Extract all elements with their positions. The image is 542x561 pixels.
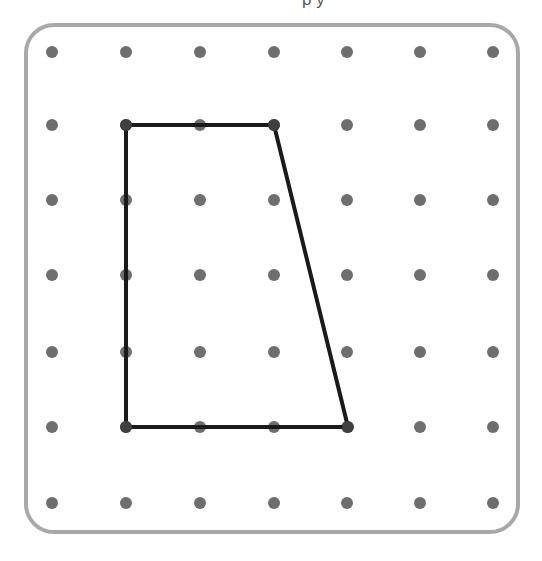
peg-dot[interactable]: [46, 46, 58, 58]
peg-dot[interactable]: [487, 421, 499, 433]
peg-dot[interactable]: [414, 119, 426, 131]
peg-dot[interactable]: [414, 346, 426, 358]
peg-dot[interactable]: [46, 421, 58, 433]
peg-dot[interactable]: [268, 46, 280, 58]
peg-dot[interactable]: [46, 119, 58, 131]
peg-dot[interactable]: [487, 346, 499, 358]
peg-dot[interactable]: [487, 269, 499, 281]
peg-dot[interactable]: [194, 497, 206, 509]
peg-dot[interactable]: [194, 346, 206, 358]
peg-dot[interactable]: [46, 497, 58, 509]
peg-dot[interactable]: [487, 46, 499, 58]
peg-dot[interactable]: [341, 194, 353, 206]
shape-vertex-bottom-right[interactable]: [342, 421, 354, 433]
peg-dot[interactable]: [46, 346, 58, 358]
peg-dot[interactable]: [414, 269, 426, 281]
shape-vertex-bottom-left[interactable]: [120, 421, 132, 433]
peg-dot[interactable]: [414, 194, 426, 206]
geoboard-canvas: [0, 0, 542, 561]
geoboard-figure: p y: [0, 0, 542, 561]
shape-vertex-top-right[interactable]: [268, 119, 280, 131]
peg-dot[interactable]: [46, 269, 58, 281]
peg-dot[interactable]: [341, 119, 353, 131]
peg-dot[interactable]: [414, 46, 426, 58]
peg-dot[interactable]: [268, 497, 280, 509]
peg-dot[interactable]: [120, 46, 132, 58]
peg-dot[interactable]: [414, 421, 426, 433]
peg-dot[interactable]: [341, 346, 353, 358]
peg-dot[interactable]: [194, 269, 206, 281]
peg-dot[interactable]: [414, 497, 426, 509]
peg-dot[interactable]: [341, 269, 353, 281]
peg-dot[interactable]: [46, 194, 58, 206]
peg-dot[interactable]: [194, 194, 206, 206]
peg-dot[interactable]: [194, 46, 206, 58]
peg-dot[interactable]: [487, 119, 499, 131]
shape-vertex-top-left[interactable]: [120, 119, 132, 131]
peg-dot[interactable]: [268, 194, 280, 206]
peg-dot[interactable]: [341, 46, 353, 58]
peg-dot[interactable]: [268, 269, 280, 281]
peg-dot[interactable]: [487, 194, 499, 206]
peg-dot[interactable]: [487, 497, 499, 509]
peg-dot[interactable]: [268, 346, 280, 358]
peg-dot[interactable]: [120, 497, 132, 509]
peg-dot[interactable]: [341, 497, 353, 509]
